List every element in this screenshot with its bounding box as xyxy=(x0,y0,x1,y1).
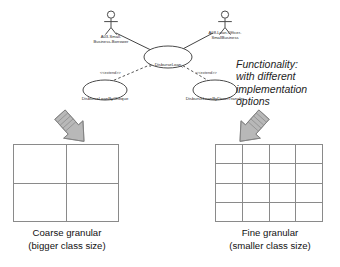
grid-cell xyxy=(270,203,297,222)
class-grid-fine xyxy=(215,144,323,222)
annotation-line-2: with different xyxy=(236,70,307,82)
grid-cell xyxy=(243,184,270,203)
caption-fine-line1: Fine granular xyxy=(204,227,336,240)
grid-cell xyxy=(296,164,323,183)
block-arrow-down-left xyxy=(48,108,96,148)
caption-coarse-granular: Coarse granular (bigger class size) xyxy=(5,227,129,252)
usecase-label-disburse-loan: DisburseLoan xyxy=(123,62,213,68)
grid-cell xyxy=(270,145,297,164)
grid-cell xyxy=(243,164,270,183)
usecase-label-disburse-loan-by-cheque: DisburseLoanByCheque xyxy=(60,96,150,102)
grid-cell xyxy=(216,203,243,222)
class-grid-coarse xyxy=(13,144,119,222)
grid-cell xyxy=(270,184,297,203)
grid-cell xyxy=(270,164,297,183)
grid-cell xyxy=(216,164,243,183)
annotation-line-1: Functionality: xyxy=(236,58,307,70)
annotation-line-3: implementation xyxy=(236,83,307,95)
caption-fine-line2: (smaller class size) xyxy=(204,240,336,253)
grid-cell xyxy=(14,145,67,184)
stereotype-extend-cheque: <<extend>> xyxy=(100,71,121,76)
stereotype-extend-direct-transfer: <<extend>> xyxy=(196,71,217,76)
block-arrow-down-right xyxy=(228,108,276,148)
grid-cell xyxy=(67,145,120,184)
grid-cell xyxy=(216,184,243,203)
grid-cell xyxy=(296,203,323,222)
grid-cell xyxy=(14,184,67,223)
grid-cell xyxy=(243,203,270,222)
annotation-note: Functionality: with different implementa… xyxy=(236,58,307,108)
diagram-canvas: A03-Small- Business-Borrower A08-Loan-Of… xyxy=(0,0,340,267)
grid-cell xyxy=(216,145,243,164)
caption-coarse-line2: (bigger class size) xyxy=(5,240,129,253)
caption-fine-granular: Fine granular (smaller class size) xyxy=(204,227,336,252)
grid-cell xyxy=(243,145,270,164)
caption-coarse-line1: Coarse granular xyxy=(5,227,129,240)
grid-cell xyxy=(296,184,323,203)
annotation-line-4: options xyxy=(236,95,307,107)
grid-cell xyxy=(67,184,120,223)
grid-cell xyxy=(296,145,323,164)
